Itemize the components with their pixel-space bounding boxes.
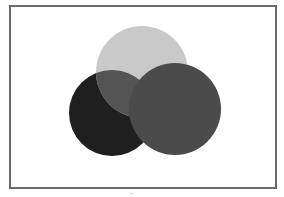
right-circle [129,63,221,155]
scan-artifact [130,193,133,194]
canvas [0,0,284,197]
circles-diagram [0,0,284,197]
